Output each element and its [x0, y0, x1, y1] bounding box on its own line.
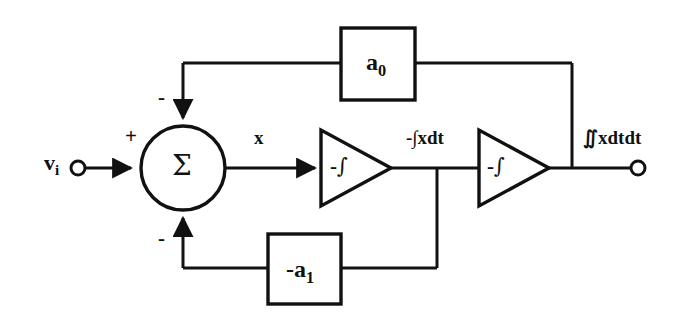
sum-output-signal-label: x: [254, 128, 264, 147]
block-diagram-canvas: vi + - - Σ x -∫ -∫xdt -∫ ∬xdtdt a0 -a1: [0, 0, 679, 333]
input-terminal-circle: [71, 161, 85, 175]
gain-block-a0-label: a0: [366, 50, 386, 79]
integrator-2-label: -∫: [487, 156, 505, 177]
output-terminal-circle: [631, 161, 645, 175]
first-integrator-output-label: -∫xdt: [406, 128, 444, 147]
sum-input-sign-minus-bottom: -: [158, 228, 165, 249]
sum-input-sign-minus-top: -: [158, 87, 165, 108]
integrator-1-label: -∫: [330, 156, 348, 177]
second-integrator-output-label: ∬xdtdt: [583, 128, 641, 147]
sigma-symbol: Σ: [172, 152, 192, 180]
gain-block-a1-label: -a1: [286, 257, 314, 286]
input-signal-label: vi: [44, 152, 59, 178]
sum-input-sign-plus: +: [125, 126, 137, 147]
